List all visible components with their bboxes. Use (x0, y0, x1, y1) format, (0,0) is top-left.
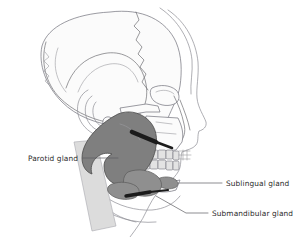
leader-submandibular (156, 196, 208, 213)
label-submandibular-gland: Submandibular gland (212, 209, 293, 218)
salivary-gland-illustration: Parotid gland Sublingual gland Submandib… (0, 0, 294, 237)
label-sublingual-gland: Sublingual gland (226, 179, 290, 188)
cranium (41, 11, 181, 126)
anatomy-svg: Parotid gland Sublingual gland Submandib… (0, 0, 294, 237)
label-parotid-gland: Parotid gland (28, 154, 78, 163)
